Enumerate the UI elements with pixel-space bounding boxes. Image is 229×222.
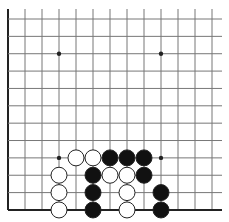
- go-board[interactable]: [0, 0, 229, 222]
- white-stone: [119, 185, 135, 201]
- white-stone: [51, 202, 67, 218]
- black-stone: [85, 167, 101, 183]
- black-stone: [102, 150, 118, 166]
- black-stone: [85, 202, 101, 218]
- black-stone: [153, 185, 169, 201]
- black-stone: [136, 167, 152, 183]
- black-stone: [119, 150, 135, 166]
- black-stone: [153, 202, 169, 218]
- star-point-icon: [57, 52, 61, 56]
- white-stone: [51, 167, 67, 183]
- black-stone: [85, 185, 101, 201]
- white-stone: [68, 150, 84, 166]
- white-stone: [102, 167, 118, 183]
- white-stone: [119, 202, 135, 218]
- white-stone: [85, 150, 101, 166]
- star-point-icon: [57, 156, 61, 160]
- white-stone: [51, 185, 67, 201]
- black-stone: [136, 150, 152, 166]
- star-point-icon: [159, 52, 163, 56]
- white-stone: [119, 167, 135, 183]
- star-point-icon: [159, 156, 163, 160]
